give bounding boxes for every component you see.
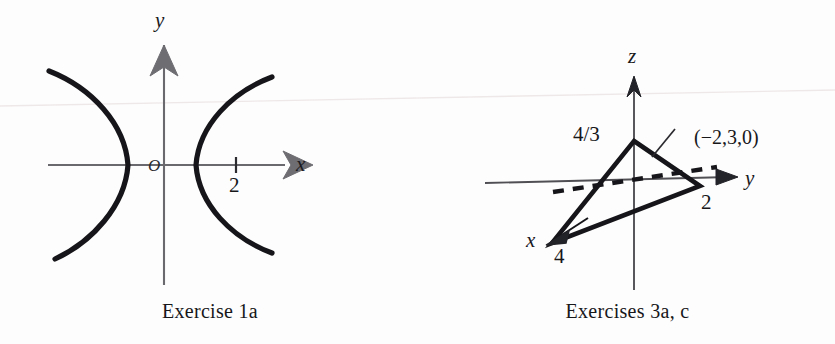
hyperbola-diagram: [0, 0, 420, 300]
plane-leader-line: [652, 129, 675, 157]
y-axis-arrowhead: [716, 169, 738, 185]
z-axis-label: z: [628, 44, 636, 69]
x-intercept-label: 4: [554, 244, 565, 269]
z-intercept-label: 4/3: [573, 122, 600, 147]
y-axis-label: y: [745, 166, 754, 191]
caption-exercise-1a: Exercise 1a: [0, 300, 420, 323]
point-callout-label: (−2,3,0): [694, 126, 759, 149]
y-intercept-label: 2: [701, 190, 712, 215]
origin-label: O: [148, 156, 160, 176]
figure-page: x y O 2 Exercise 1a y z x 4/: [0, 0, 835, 344]
x-axis-label: x: [526, 228, 535, 253]
figure-hyperbola: x y O 2 Exercise 1a: [0, 0, 420, 344]
caption-exercises-3a-c: Exercises 3a, c: [420, 300, 835, 323]
x-axis-label: x: [296, 152, 305, 177]
x-tick-label-2: 2: [229, 173, 240, 198]
y-axis-label: y: [155, 8, 164, 33]
figure-plane-triangle: y z x 4/3 2 4 (−2,3,0) Exercises 3a, c: [420, 0, 835, 344]
